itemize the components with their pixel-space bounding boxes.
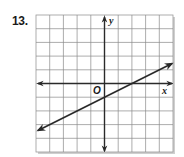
origin-label: O xyxy=(93,85,101,96)
x-axis-label: x xyxy=(161,85,167,96)
graph-canvas: y x O xyxy=(0,0,184,157)
coordinate-graph: y x O xyxy=(0,0,184,157)
y-axis-label: y xyxy=(108,15,114,26)
